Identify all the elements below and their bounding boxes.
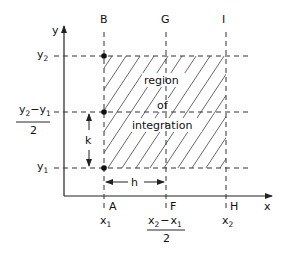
svg-text:x2−x1: x2−x1 bbox=[148, 214, 182, 229]
svg-text:y2: y2 bbox=[37, 48, 49, 63]
h-label: h bbox=[131, 176, 138, 189]
point-label-H: H bbox=[230, 200, 238, 213]
point-marker-ymid bbox=[101, 109, 107, 115]
svg-text:x1: x1 bbox=[100, 214, 112, 229]
svg-text:2: 2 bbox=[30, 124, 37, 137]
region-text-line1: region bbox=[144, 74, 179, 87]
svg-text:x2: x2 bbox=[222, 214, 234, 229]
svg-text:y2−y1: y2−y1 bbox=[19, 103, 51, 118]
point-marker-y1 bbox=[101, 165, 107, 171]
point-label-G: G bbox=[161, 13, 170, 26]
region-text-line3: integration bbox=[132, 119, 192, 132]
integration-diagram: k h y x B G I A F H x1 x2−x1 2 x2 y2 y2−… bbox=[0, 0, 290, 254]
x-tick-x2: x2 bbox=[222, 214, 234, 229]
x-tick-xmid: x2−x1 2 bbox=[147, 214, 185, 245]
point-label-A: A bbox=[109, 200, 117, 213]
point-label-B: B bbox=[100, 13, 108, 26]
y-tick-ymid: y2−y1 2 bbox=[16, 103, 51, 137]
y-tick-y2: y2 bbox=[37, 48, 49, 63]
x-tick-x1: x1 bbox=[100, 214, 112, 229]
point-label-F: F bbox=[170, 200, 176, 213]
x-axis-label: x bbox=[264, 200, 271, 213]
k-label: k bbox=[85, 134, 92, 147]
region-text-line2: of bbox=[157, 99, 169, 112]
point-label-I: I bbox=[222, 13, 225, 26]
y-tick-y1: y1 bbox=[37, 160, 49, 175]
point-marker-y2 bbox=[101, 53, 107, 59]
svg-text:y1: y1 bbox=[37, 160, 49, 175]
svg-text:2: 2 bbox=[163, 232, 170, 245]
y-axis-label: y bbox=[52, 24, 59, 37]
